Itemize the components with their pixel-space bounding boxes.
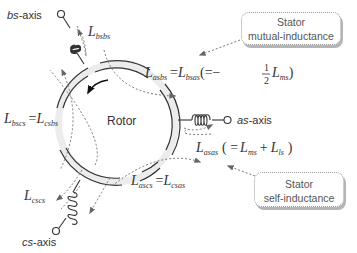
callout-mutual-line1: Stator [242,15,340,29]
bs-axis-coil [58,11,85,65]
rotation-arrow-icon [88,80,108,93]
callout-self-line1: Stator [255,177,343,191]
rotor-label: Rotor [107,114,136,128]
cs-axis-label: cs-axis [22,236,57,248]
callout-self-line2: self-inductance [255,191,343,205]
fraction-denominator: 2 [264,75,269,86]
mutual-inductance-ms: Lms) [271,65,294,82]
mutual-inductance-ascs: Lascs=Lcsas [130,173,185,190]
callout-stator-mutual-inductance: Stator mutual-inductance [241,12,341,45]
bs-axis-label: bs-axis [7,9,42,21]
mutual-inductance-bscs: Lbscs=Lcsbs [3,111,58,128]
as-axis-coil [178,115,231,126]
stator-rotor-inductance-diagram: bs-axis as-axis cs-axis Rotor Lbsbs Lasb… [0,0,357,253]
fraction-numerator: 1 [264,62,269,73]
self-inductance-cscs: Lcscs [23,188,45,205]
self-inductance-asas: Lasas( =Lms+Lls) [195,140,293,157]
self-inductance-bsbs: Lbsbs [87,24,110,41]
cs-axis-coil [53,180,81,235]
callout-mutual-line2: mutual-inductance [242,29,340,43]
as-axis-label: as-axis [237,114,272,126]
callout-stator-self-inductance: Stator self-inductance [254,172,344,207]
mutual-inductance-asbs: Lasbs=Lbsas(=− [144,65,221,82]
